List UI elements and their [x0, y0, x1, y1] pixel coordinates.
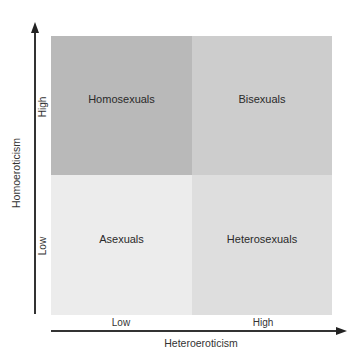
y-tick-low: Low: [37, 226, 49, 266]
quadrant-homosexuals: Homosexuals: [51, 36, 192, 175]
quadrant-asexuals: Asexuals: [51, 175, 192, 315]
y-axis-label: Homoeroticism: [9, 113, 23, 233]
x-tick-high: High: [233, 317, 293, 329]
y-axis-arrowhead-icon: [31, 22, 39, 33]
x-axis-arrowhead-icon: [336, 327, 347, 335]
quadrant-label-heterosexuals: Heterosexuals: [227, 233, 297, 245]
quadrant-bisexuals: Bisexuals: [192, 36, 332, 175]
y-axis-line: [34, 30, 36, 314]
quadrant-label-bisexuals: Bisexuals: [238, 93, 285, 105]
x-axis-line: [51, 330, 338, 332]
x-tick-low: Low: [91, 317, 151, 329]
quadrant-heterosexuals: Heterosexuals: [192, 175, 332, 315]
y-tick-high: High: [37, 87, 49, 127]
quadrant-label-homosexuals: Homosexuals: [88, 93, 155, 105]
quadrant-label-asexuals: Asexuals: [99, 233, 144, 245]
x-axis-label: Heteroeroticism: [131, 336, 271, 350]
